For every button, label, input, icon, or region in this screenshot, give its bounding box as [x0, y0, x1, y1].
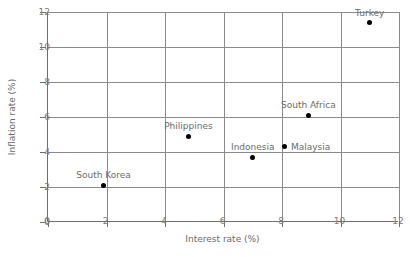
x-tick-label: 0 — [44, 216, 50, 226]
x-axis-title: Interest rate (%) — [47, 234, 398, 244]
gridline-vertical — [165, 12, 166, 222]
data-point-label: Indonesia — [231, 142, 275, 152]
gridline-vertical — [107, 12, 108, 222]
gridline-vertical — [341, 12, 342, 222]
gridline-vertical — [224, 12, 225, 222]
x-tick-label: 10 — [334, 216, 345, 226]
y-tick-label: 2 — [44, 182, 50, 192]
data-point-label: Turkey — [355, 8, 384, 18]
data-point — [282, 144, 287, 149]
data-point-label: Philippines — [164, 121, 213, 131]
x-tick-label: 2 — [103, 216, 109, 226]
gridline-vertical — [399, 12, 400, 222]
data-point — [367, 20, 372, 25]
y-tick-label: 4 — [44, 147, 50, 157]
x-tick-label: 4 — [161, 216, 167, 226]
data-point-label: Malaysia — [291, 142, 330, 152]
gridline-vertical — [282, 12, 283, 222]
y-tick-label: 8 — [44, 77, 50, 87]
data-point-label: South Africa — [281, 100, 336, 110]
x-tick-label: 6 — [220, 216, 226, 226]
data-point — [101, 183, 106, 188]
x-tick-label: 8 — [278, 216, 284, 226]
data-point-label: South Korea — [76, 170, 131, 180]
data-point — [186, 134, 191, 139]
y-tick-label: 6 — [44, 112, 50, 122]
y-tick-label: 12 — [39, 7, 50, 17]
x-tick-label: 12 — [392, 216, 403, 226]
data-point — [306, 113, 311, 118]
y-axis-title: Inflation rate (%) — [7, 57, 17, 177]
y-tick-label: 10 — [39, 42, 50, 52]
data-point — [250, 155, 255, 160]
plot-area: TurkeySouth AfricaPhilippinesMalaysiaInd… — [47, 12, 398, 222]
scatter-chart: TurkeySouth AfricaPhilippinesMalaysiaInd… — [0, 0, 410, 257]
